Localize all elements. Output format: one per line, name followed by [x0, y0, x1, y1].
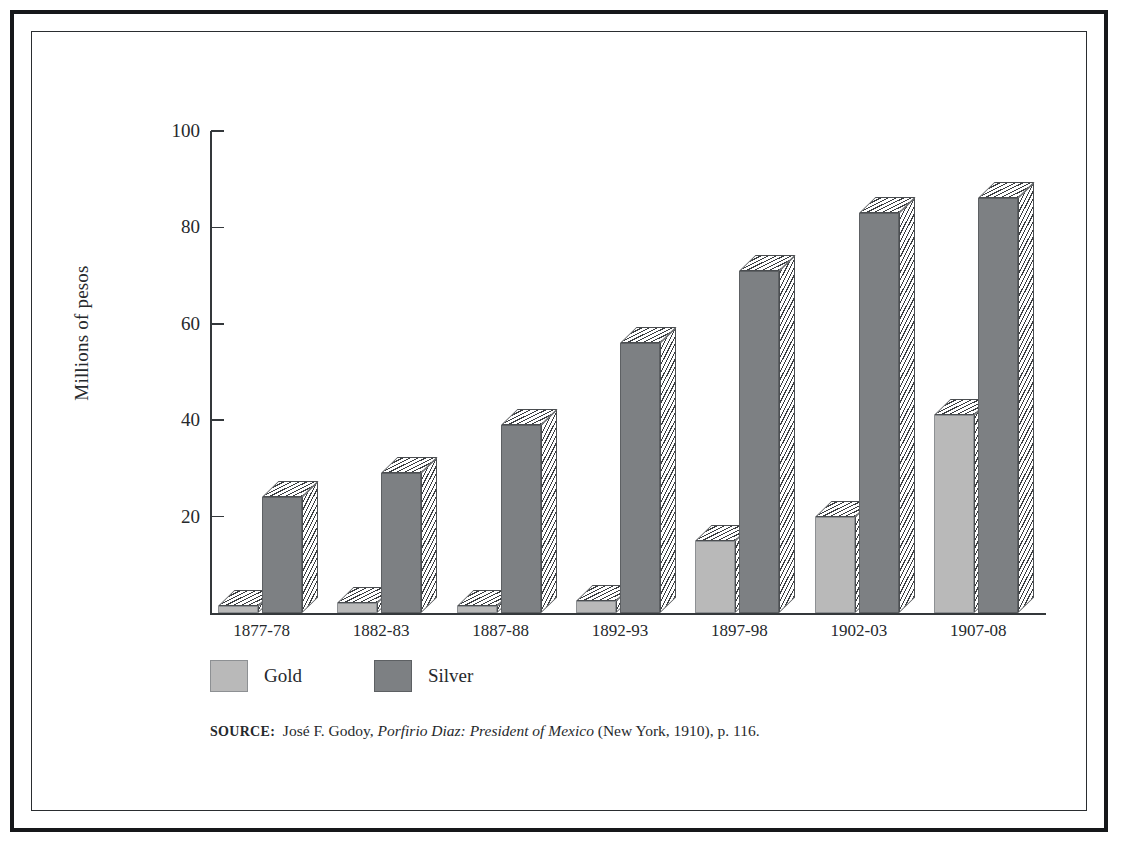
- legend-item-gold: Gold: [210, 660, 374, 692]
- source-title: Porfirio Diaz: President of Mexico: [378, 722, 594, 739]
- bar-side-face: [779, 255, 795, 613]
- source-author: José F. Godoy,: [283, 722, 374, 739]
- bar-side-face: [1018, 183, 1034, 613]
- x-axis-tick-label: 1902-03: [799, 622, 919, 639]
- bar-side-face: [302, 482, 318, 613]
- y-axis-tick-label: 20: [146, 507, 200, 526]
- bar-front-face: [337, 603, 377, 613]
- y-axis-line: [210, 131, 212, 614]
- bar-front-face: [457, 606, 497, 613]
- bar-side-face: [660, 328, 676, 613]
- bar-side-face: [541, 410, 557, 613]
- legend-swatch-gold: [210, 660, 248, 692]
- y-axis-tick: [211, 227, 224, 229]
- chart-legend: Gold Silver: [210, 660, 545, 692]
- source-prefix: SOURCE:: [210, 724, 275, 739]
- y-axis-title: Millions of pesos: [71, 223, 93, 443]
- legend-item-silver: Silver: [374, 660, 545, 692]
- bar-front-face: [262, 497, 302, 613]
- bar-silver-1907-08: [978, 182, 1018, 613]
- bar-front-face: [576, 601, 616, 613]
- x-axis-tick-label: 1882-83: [321, 622, 441, 639]
- bar-front-face: [620, 343, 660, 613]
- bar-gold-1887-88: [457, 590, 497, 613]
- bar-silver-1877-78: [262, 481, 302, 613]
- legend-label-silver: Silver: [428, 665, 473, 687]
- inner-border: Millions of pesos 10080604020 1877-78188…: [31, 31, 1087, 811]
- figure-page: Millions of pesos 10080604020 1877-78188…: [0, 0, 1126, 848]
- bar-side-face: [899, 197, 915, 612]
- bar-gold-1897-98: [695, 525, 735, 613]
- source-publication: (New York, 1910), p. 116.: [598, 722, 760, 739]
- y-axis-tick: [211, 130, 224, 132]
- x-axis-tick-label: 1877-78: [202, 622, 322, 639]
- y-axis-tick: [211, 419, 224, 421]
- y-axis-tick-label: 80: [146, 217, 200, 236]
- chart-plot-area: Millions of pesos 10080604020 1877-78188…: [32, 32, 1088, 812]
- bar-gold-1892-93: [576, 585, 616, 613]
- x-axis-tick-label: 1887-88: [441, 622, 561, 639]
- legend-swatch-silver: [374, 660, 412, 692]
- y-axis-tick-label: 60: [146, 314, 200, 333]
- bar-front-face: [815, 517, 855, 613]
- bar-front-face: [978, 198, 1018, 613]
- x-axis-line: [210, 613, 1046, 615]
- y-axis-tick-label: 40: [146, 410, 200, 429]
- bar-gold-1907-08: [934, 399, 974, 613]
- x-axis-tick-label: 1892-93: [560, 622, 680, 639]
- legend-label-gold: Gold: [264, 665, 302, 687]
- bar-side-face: [421, 458, 437, 613]
- bar-silver-1892-93: [620, 327, 660, 613]
- bar-front-face: [859, 213, 899, 613]
- bar-front-face: [381, 473, 421, 613]
- bar-silver-1882-83: [381, 457, 421, 613]
- bar-gold-1882-83: [337, 587, 377, 613]
- bar-front-face: [739, 271, 779, 613]
- y-axis-tick: [211, 323, 224, 325]
- y-axis-tick: [211, 516, 224, 518]
- bar-front-face: [218, 606, 258, 613]
- bar-silver-1897-98: [739, 255, 779, 613]
- x-axis-tick-label: 1907-08: [918, 622, 1038, 639]
- bar-front-face: [695, 541, 735, 613]
- bar-silver-1902-03: [859, 197, 899, 613]
- bar-gold-1877-78: [218, 590, 258, 613]
- bar-front-face: [501, 425, 541, 613]
- source-note: SOURCE: José F. Godoy, Porfirio Diaz: Pr…: [210, 722, 760, 740]
- x-axis-tick-label: 1897-98: [679, 622, 799, 639]
- bar-gold-1902-03: [815, 501, 855, 613]
- bar-silver-1887-88: [501, 409, 541, 613]
- bar-front-face: [934, 415, 974, 613]
- y-axis-tick-label: 100: [146, 121, 200, 140]
